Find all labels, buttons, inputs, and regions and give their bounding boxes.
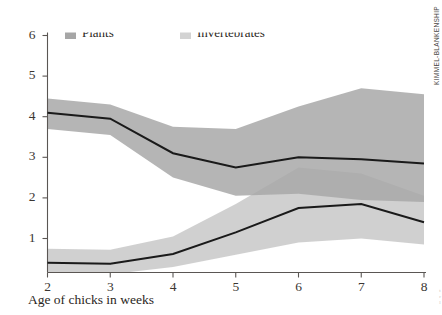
y-axis-tick-label: 6 (16, 27, 36, 43)
y-axis-tick-label: 2 (16, 189, 36, 205)
plot-svg (0, 0, 442, 315)
y-axis-tick-label: 5 (16, 67, 36, 83)
margin-bleed-text: t r l (439, 288, 441, 306)
x-axis-tick-label: 8 (414, 279, 434, 295)
photo-credit: KIMMEL-BLANKENSHIP (433, 6, 440, 85)
y-axis-tick-label: 1 (16, 230, 36, 246)
y-axis-tick-label: 4 (16, 108, 36, 124)
y-axis-tick-label: 3 (16, 148, 36, 164)
x-axis-tick-label: 5 (226, 279, 246, 295)
confidence-band-plants (48, 88, 425, 202)
x-axis-tick-label: 6 (289, 279, 309, 295)
chart-figure: Food items eaten per minute Plants Inver… (0, 0, 442, 315)
x-axis-title: Age of chicks in weeks (28, 292, 154, 308)
x-axis-tick-label: 7 (351, 279, 371, 295)
plot-area: 123456 2345678 (0, 0, 442, 315)
x-axis-tick-label: 4 (163, 279, 183, 295)
top-mask (0, 0, 442, 33)
